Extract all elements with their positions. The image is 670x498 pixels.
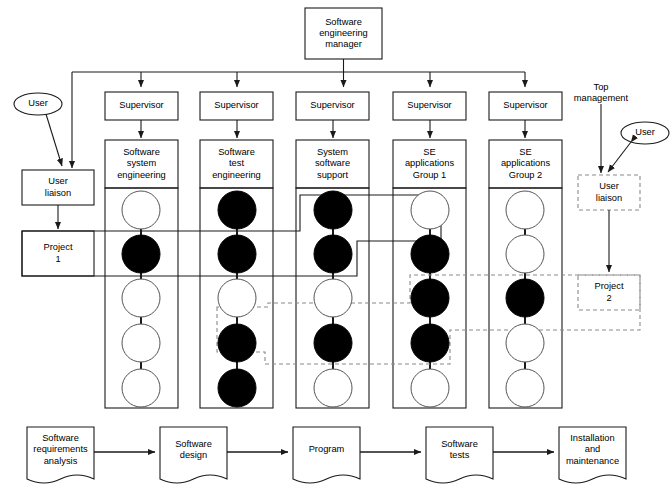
staff-circle-assigned [411,324,449,362]
staff-circle-unassigned [314,279,352,317]
staff-circle-assigned [506,279,544,317]
staff-circle-unassigned [122,369,160,407]
process-doc-2-shape [160,427,227,483]
supervisor-box-2-shape [200,92,273,120]
staff-circle-layer [122,191,544,407]
department-box-2-shape [200,140,273,188]
diagram-vector-layer [0,0,670,498]
staff-circle-assigned [314,191,352,229]
staff-circle-unassigned [506,324,544,362]
department-box-5-shape [489,140,562,188]
staff-circle-unassigned [411,191,449,229]
department-box-1-shape [105,140,178,188]
user-right-double-arrow [608,142,631,172]
supervisor-box-5-shape [489,92,562,120]
staff-circle-assigned [122,235,160,273]
staff-circle-assigned [218,191,256,229]
project-1-box-shape [22,231,94,276]
staff-circle-assigned [218,235,256,273]
process-doc-3-shape [293,427,360,483]
user-liaison-box-right-shape [578,175,640,210]
user-liaison-box-left-shape [22,170,94,205]
process-doc-1-shape [27,427,94,483]
staff-circle-unassigned [314,369,352,407]
staff-circle-unassigned [218,279,256,317]
staff-circle-assigned [314,324,352,362]
process-doc-5-shape [559,427,626,483]
staff-circle-assigned [411,235,449,273]
user-left-arrow [46,114,62,166]
staff-circle-assigned [314,235,352,273]
staff-circle-unassigned [506,191,544,229]
staff-circle-assigned [411,279,449,317]
top-management-label: Top management [566,82,636,104]
staff-circle-unassigned [122,324,160,362]
staff-circle-unassigned [506,235,544,273]
department-box-3-shape [296,140,369,188]
diagram-canvas: Software engineering manager Supervisor … [0,0,670,498]
staff-circle-unassigned [506,369,544,407]
user-ellipse-left-shape [14,93,62,115]
staff-circle-unassigned [411,369,449,407]
supervisor-box-3-shape [296,92,369,120]
staff-circle-assigned [218,369,256,407]
project-2-box-shape [578,275,640,310]
department-box-4-shape [393,140,466,188]
staff-circle-unassigned [122,279,160,317]
staff-circle-assigned [218,324,256,362]
user-ellipse-right-shape [621,122,669,144]
supervisor-box-1-shape [105,92,178,120]
process-doc-4-shape [426,427,493,483]
staff-circle-unassigned [122,191,160,229]
supervisor-box-4-shape [393,92,466,120]
manager-box-shape [305,8,382,59]
